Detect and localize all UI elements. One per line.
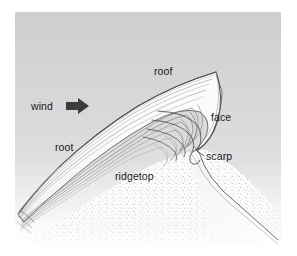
label-roof: roof — [154, 65, 173, 77]
cornice-figure: wind roof face root scarp ridgetop — [0, 0, 297, 256]
cornice-diagram-svg: wind roof face root scarp ridgetop — [0, 0, 297, 256]
label-ridgetop: ridgetop — [115, 170, 154, 182]
label-scarp: scarp — [206, 150, 232, 162]
label-root: root — [55, 141, 74, 153]
label-wind: wind — [30, 100, 53, 112]
label-face: face — [211, 111, 231, 123]
